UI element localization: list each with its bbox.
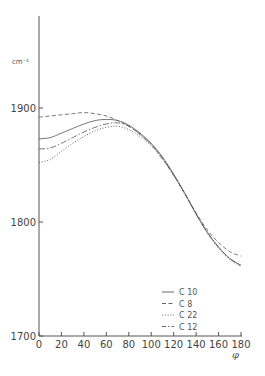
y-unit-label: cm⁻¹ <box>12 58 29 66</box>
series-line-c12 <box>39 123 241 266</box>
y-ticks: 170018001900 <box>11 103 43 342</box>
series-line-c10 <box>39 119 241 265</box>
series-group <box>39 113 241 267</box>
x-tick-label: 20 <box>55 339 68 350</box>
x-tick-label: 60 <box>100 339 113 350</box>
x-tick-label: 140 <box>187 339 206 350</box>
axes: 020406080100120140160180 170018001900 cm… <box>11 16 251 360</box>
x-tick-label: 120 <box>164 339 183 350</box>
x-tick-label: 160 <box>209 339 228 350</box>
x-ticks: 020406080100120140160180 <box>36 332 251 350</box>
x-tick-label: 80 <box>122 339 135 350</box>
y-tick-label: 1800 <box>11 217 36 228</box>
x-tick-label: 100 <box>142 339 161 350</box>
legend-label: C 8 <box>179 300 192 309</box>
legend: C 10C 8C 22C 12 <box>162 288 197 332</box>
legend-label: C 10 <box>179 288 197 297</box>
legend-label: C 22 <box>179 311 197 320</box>
legend-label: C 12 <box>179 323 197 332</box>
x-tick-label: 40 <box>78 339 91 350</box>
x-tick-label: 0 <box>36 339 42 350</box>
y-tick-label: 1900 <box>11 103 36 114</box>
y-tick-label: 1700 <box>11 331 36 342</box>
chart: 020406080100120140160180 170018001900 cm… <box>0 0 265 376</box>
x-axis-title: φ <box>232 349 239 360</box>
series-line-c22 <box>39 126 241 266</box>
